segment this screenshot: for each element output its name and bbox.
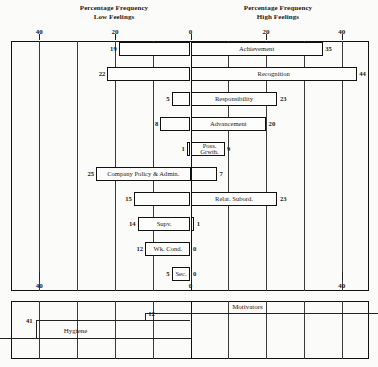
value-high-0: 35 [325, 45, 341, 52]
value-low-8: 12 [129, 245, 143, 252]
bottom-axis-tick-40-right: 40 [332, 282, 352, 290]
right-axis-title-line1: Percentage Frequency [244, 4, 312, 12]
bar-category-label-3: Advancement [205, 120, 251, 127]
value-low-4: 1 [171, 145, 185, 152]
bar-category-label-5: Company Policy & Admin. [100, 170, 187, 177]
bar-category-label-line: Advancement [205, 120, 251, 127]
motivators-low-value: 12 [148, 310, 155, 317]
value-low-7: 14 [122, 220, 136, 227]
bar-category-label-line: Recognition [251, 70, 297, 77]
bar-category-label-7: Supv. [147, 220, 181, 227]
hygiene-line [0, 338, 191, 339]
right-axis-title: Percentage Frequency High Feelings [218, 4, 338, 21]
bar-category-label-line: Responsibility [206, 95, 262, 102]
gridline-summary--40 [39, 301, 40, 359]
right-axis-title-line2: High Feelings [218, 13, 338, 22]
value-low-2: 5 [156, 95, 170, 102]
bottom-axis-tick-0-center: 0 [181, 282, 201, 290]
bar-category-label-line: Supv. [147, 220, 181, 227]
value-high-5: 7 [219, 170, 235, 177]
bar-high-7 [191, 217, 195, 231]
bar-low-0 [119, 42, 191, 56]
gridline-main--30 [77, 41, 78, 291]
left-axis-title-line2: Low Feelings [54, 13, 174, 22]
top-tick-mark-20 [266, 34, 267, 40]
bar-category-label-8: Wk. Cond. [148, 245, 187, 252]
hygiene-right-tick [36, 320, 37, 338]
value-low-6: 15 [118, 195, 132, 202]
motivators-left-tick [145, 313, 146, 320]
bar-category-label-4: Poss.Grwth. [193, 143, 227, 155]
bottom-tick-mark--40 [39, 272, 40, 280]
value-high-1: 44 [359, 70, 375, 77]
bar-category-label-line: Sec. [164, 270, 198, 277]
bar-low-1 [107, 67, 190, 81]
left-axis-title-line1: Percentage Frequency [80, 4, 148, 12]
bar-category-label-1: Recognition [251, 70, 297, 77]
motivators-label: Motivators [213, 303, 283, 311]
bar-category-label-line: Relat. Subord. [206, 195, 262, 202]
gridline-main--40 [39, 41, 40, 291]
bar-category-label-line: Company Policy & Admin. [100, 170, 187, 177]
gridline-summary-40 [342, 301, 343, 359]
hygiene-label: Hygiene [46, 327, 106, 335]
herzberg-chart: Percentage Frequency Low Feelings Percen… [0, 0, 378, 367]
value-high-6: 23 [280, 195, 296, 202]
bar-category-label-6: Relat. Subord. [206, 195, 262, 202]
hygiene-upper-line [36, 320, 191, 321]
value-high-3: 20 [269, 120, 285, 127]
top-tick-mark--20 [115, 34, 116, 40]
bar-category-label-2: Responsibility [206, 95, 262, 102]
zero-axis-summary [191, 301, 192, 359]
top-tick-mark-0 [191, 34, 192, 40]
value-high-7: 1 [197, 220, 213, 227]
bar-category-label-line: Grwth. [193, 149, 227, 155]
value-low-3: 8 [144, 120, 158, 127]
left-axis-title: Percentage Frequency Low Feelings [54, 4, 174, 21]
bar-category-label-0: Achievement [234, 45, 280, 52]
bar-low-3 [160, 117, 190, 131]
bottom-tick-mark-40 [342, 272, 343, 280]
top-tick-mark-40 [342, 34, 343, 40]
bar-high-5 [191, 167, 217, 181]
bottom-axis-tick-40-left: 40 [29, 282, 49, 290]
gridline-summary-30 [304, 301, 305, 359]
value-high-2: 23 [280, 95, 296, 102]
bar-category-label-line: Achievement [234, 45, 280, 52]
value-low-1: 22 [91, 70, 105, 77]
bar-low-6 [134, 192, 191, 206]
bar-low-2 [172, 92, 191, 106]
value-high-4: 9 [227, 145, 243, 152]
bar-category-label-9: Sec. [164, 270, 198, 277]
value-low-0: 19 [103, 45, 117, 52]
hygiene-high-value: 41 [19, 317, 33, 324]
bar-category-label-line: Wk. Cond. [148, 245, 187, 252]
top-tick-mark--40 [39, 34, 40, 40]
value-high-8: 0 [193, 245, 209, 252]
motivators-line [145, 313, 378, 314]
gridline-summary--20 [115, 301, 116, 359]
value-low-5: 25 [80, 170, 94, 177]
